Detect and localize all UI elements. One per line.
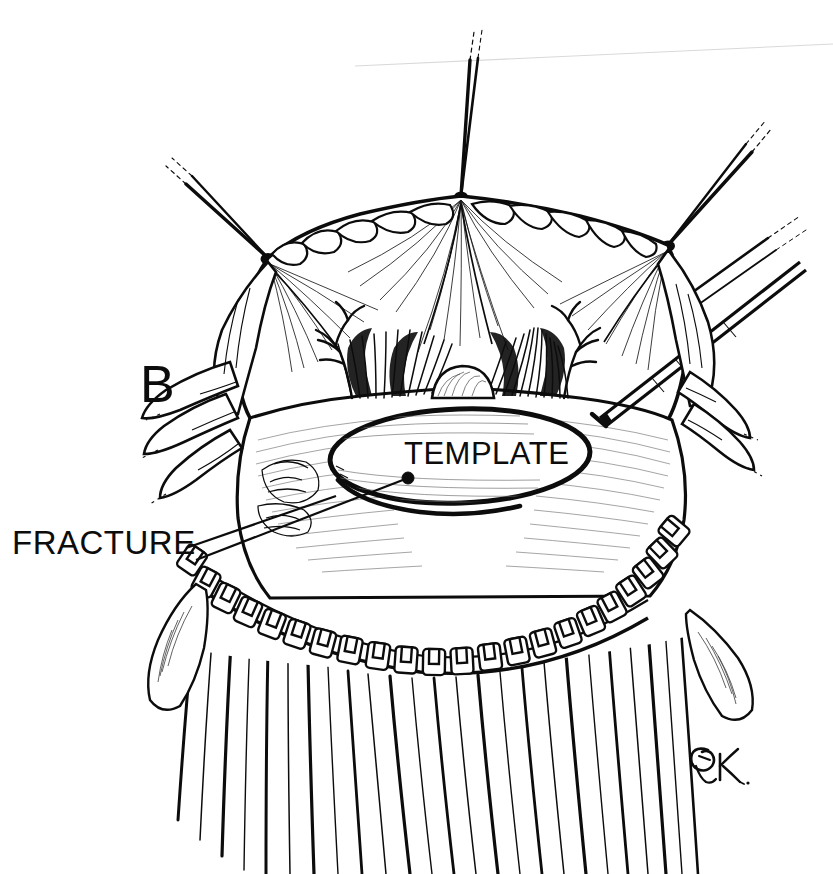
drape-lobe-right xyxy=(686,610,753,720)
template-label: TEMPLATE xyxy=(404,438,569,469)
scan-artifact-line xyxy=(355,44,833,66)
panel-letter-label: B xyxy=(140,358,175,410)
surgical-illustration-figure: B FRACTURE TEMPLATE xyxy=(0,0,833,874)
artist-signature-monogram xyxy=(686,736,756,790)
fracture-label: FRACTURE xyxy=(12,526,196,559)
template-leader-dot xyxy=(402,472,414,484)
drape-lobe-left xyxy=(148,584,207,710)
